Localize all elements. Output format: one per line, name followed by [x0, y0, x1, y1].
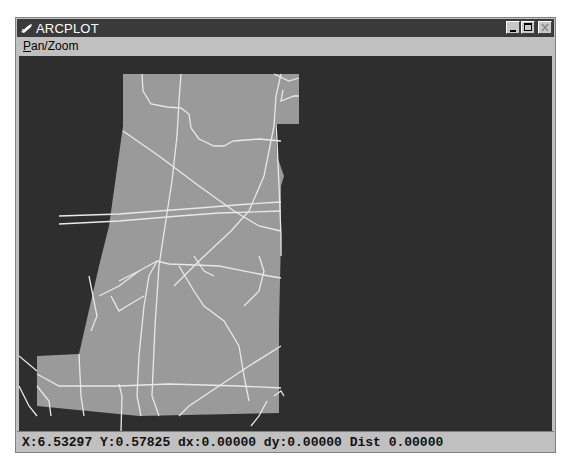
minimize-icon — [507, 22, 519, 33]
menu-pan-zoom[interactable]: Pan/Zoom — [17, 39, 84, 53]
menu-bar: Pan/Zoom — [17, 37, 554, 55]
map-canvas[interactable] — [19, 56, 552, 431]
close-button[interactable] — [538, 21, 552, 34]
county-polygon — [37, 74, 299, 416]
window-controls — [506, 21, 552, 34]
arcplot-window: ARCPLOT Pan/Zoom — [15, 17, 556, 453]
menu-pan-zoom-mnemonic: P — [23, 39, 31, 53]
title-bar[interactable]: ARCPLOT — [17, 19, 554, 37]
close-icon — [539, 22, 551, 33]
window-title: ARCPLOT — [36, 21, 99, 36]
menu-pan-zoom-label: an/Zoom — [31, 39, 78, 53]
arcplot-app-icon — [20, 22, 34, 34]
maximize-icon — [522, 22, 534, 33]
coordinates-readout: X:6.53297 Y:0.57825 dx:0.00000 dy:0.0000… — [22, 435, 443, 450]
maximize-button[interactable] — [521, 21, 535, 34]
status-bar: X:6.53297 Y:0.57825 dx:0.00000 dy:0.0000… — [17, 431, 554, 452]
map-drawing — [19, 56, 552, 431]
minimize-button[interactable] — [506, 21, 520, 34]
